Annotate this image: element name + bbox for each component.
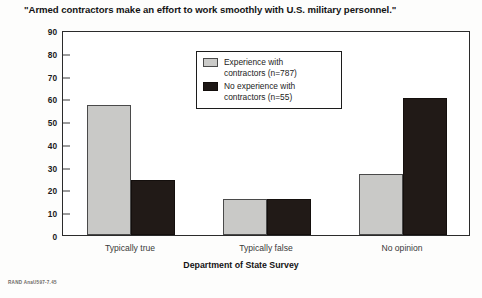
y-axis-tick-label: 50 (48, 118, 57, 128)
y-axis-tick-label: 30 (48, 164, 57, 174)
x-axis-category-label: Typically false (239, 243, 293, 253)
y-axis-tick-label: 90 (48, 27, 57, 37)
bar (359, 174, 403, 236)
black-swatch-icon (203, 82, 218, 91)
legend-label-line1: Experience with (224, 57, 283, 67)
chart-legend: Experience with contractors (n=787) No e… (196, 51, 342, 109)
gray-swatch-icon (203, 58, 218, 67)
legend-label-line1: No experience with (224, 81, 295, 91)
y-axis-tick-label: 0 (52, 232, 57, 242)
bar (131, 180, 175, 235)
bar (87, 105, 131, 235)
legend-item-label: No experience with contractors (n=55) (224, 81, 295, 102)
x-axis-title: Department of State Survey (0, 260, 482, 270)
y-axis-tick-label: 70 (48, 73, 57, 83)
chart-title: "Armed contractors make an effort to wor… (24, 4, 474, 15)
y-axis-tick-label: 80 (48, 50, 57, 60)
legend-item-label: Experience with contractors (n=787) (224, 57, 297, 78)
y-axis-tick-label: 20 (48, 186, 57, 196)
bar (223, 199, 267, 235)
x-axis-category-label: No opinion (381, 243, 422, 253)
y-axis-tick-label: 40 (48, 141, 57, 151)
x-axis-category-label: Typically true (105, 243, 155, 253)
y-axis-tick-label: 60 (48, 95, 57, 105)
legend-item: No experience with contractors (n=55) (203, 81, 335, 102)
figure-page: "Armed contractors make an effort to wor… (0, 0, 482, 298)
legend-item: Experience with contractors (n=787) (203, 57, 335, 78)
legend-label-line2: contractors (n=55) (224, 92, 292, 102)
bar (403, 98, 447, 235)
figure-credit: RAND AnaU597-7.45 (8, 280, 57, 285)
legend-label-line2: contractors (n=787) (224, 68, 297, 78)
bar (267, 199, 311, 235)
y-axis-tick-label: 10 (48, 209, 57, 219)
